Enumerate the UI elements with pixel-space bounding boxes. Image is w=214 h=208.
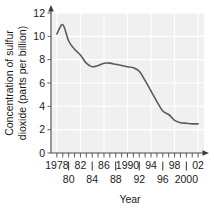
y-tick-label: 2 [39, 123, 45, 135]
y-tick-label: 6 [39, 77, 45, 89]
x-tick-label-upper: 86 [98, 159, 110, 171]
x-tick-label-upper: 1978 [45, 159, 69, 171]
so2-line-chart: 024681012 197882861990949802 80848892962… [0, 0, 214, 208]
x-axis-title: Year [119, 193, 141, 205]
x-tick-label-upper: 82 [75, 159, 87, 171]
x-tick-label-lower: 80 [63, 173, 75, 185]
y-tick-label: 12 [33, 7, 45, 19]
x-tick-label-lower: 88 [110, 173, 122, 185]
x-tick-label-lower: 96 [157, 173, 169, 185]
y-axis-title-line1: Concentration of sulfur [3, 30, 15, 136]
x-tick-label-lower: 84 [86, 173, 98, 185]
x-tick-label-upper: 94 [145, 159, 157, 171]
y-axis-title-line2: dioxide (parts per billion) [16, 26, 28, 140]
y-tick-label: 0 [39, 147, 45, 159]
y-tick-label: 8 [39, 53, 45, 65]
x-tick-label-upper: 02 [192, 159, 204, 171]
x-tick-label-upper: 98 [169, 159, 181, 171]
x-tick-label-upper: 1990 [116, 159, 140, 171]
chart-canvas: 024681012 197882861990949802 80848892962… [0, 0, 214, 208]
x-tick-label-lower: 92 [133, 173, 145, 185]
y-tick-label: 4 [39, 100, 45, 112]
x-tick-label-lower: 2000 [175, 173, 199, 185]
y-tick-label: 10 [33, 30, 45, 42]
